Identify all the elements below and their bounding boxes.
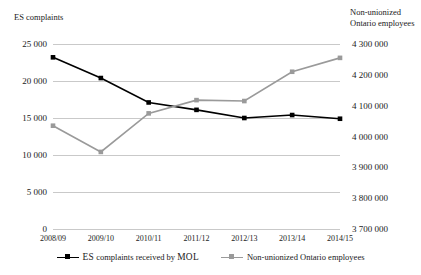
legend-swatch-icon [221, 253, 243, 261]
series-line [53, 58, 340, 152]
data-point-marker [194, 98, 199, 103]
data-point-marker [242, 116, 247, 121]
legend-label: ES complaints received by MOL [83, 252, 199, 262]
data-point-marker [51, 123, 56, 128]
legend-item[interactable]: ES complaints received by MOL [57, 252, 199, 262]
data-point-marker [51, 55, 56, 60]
data-point-marker [146, 100, 151, 105]
chart-legend: ES complaints received by MOLNon-unioniz… [0, 252, 421, 262]
data-point-marker [338, 56, 343, 61]
chart-container: ES complaints Non-unionized Ontario empl… [0, 0, 421, 275]
legend-label: Non-unionized Ontario employees [247, 252, 365, 262]
data-point-marker [242, 99, 247, 104]
data-point-marker [338, 116, 343, 121]
data-point-marker [146, 111, 151, 116]
data-point-marker [290, 113, 295, 118]
data-point-marker [194, 108, 199, 113]
series-layer [0, 0, 421, 275]
data-point-marker [99, 150, 104, 155]
legend-swatch-icon [57, 253, 79, 261]
legend-item[interactable]: Non-unionized Ontario employees [221, 252, 365, 262]
data-point-marker [99, 76, 104, 81]
data-point-marker [290, 69, 295, 74]
